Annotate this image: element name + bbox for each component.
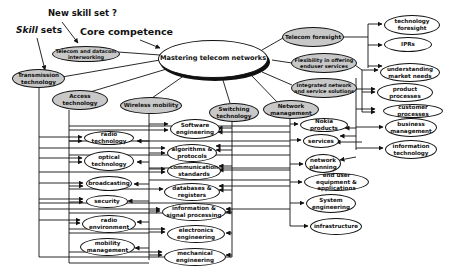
skill-node-databases-registers[interactable]: databases & registers (164, 183, 220, 201)
skill-node-technology-foresight[interactable]: technology foresight (384, 15, 440, 35)
skill-sets-italic: Skill (16, 25, 38, 35)
skill-node-services[interactable]: services (303, 134, 339, 148)
core-node-transmission[interactable]: Transmission technology (12, 69, 65, 88)
core-node-wireless[interactable]: Wireless mobility (120, 97, 182, 114)
skill-node-business-management[interactable]: business management (385, 118, 437, 137)
skill-node-algorithms-protocols[interactable]: algorithms & protocols (167, 144, 217, 162)
skill-node-understanding-market-needs[interactable]: understanding market needs (380, 63, 440, 82)
skill-node-information-signal-processing[interactable]: information & signal processing (162, 203, 226, 221)
new-skill-set-label: New skill set ? (48, 8, 117, 18)
skill-node-mechanical-engineering[interactable]: mechanical engineering (164, 248, 226, 266)
skill-node-radio-technology[interactable]: radio technology (84, 131, 134, 145)
skill-node-customer-processes[interactable]: customer processes (383, 104, 443, 118)
core-node-network-management[interactable]: Network management (263, 100, 319, 119)
skill-node-information-technology[interactable]: information technology (385, 140, 437, 159)
skill-node-iprs[interactable]: IPRs (384, 37, 432, 52)
skill-node-infrastructure[interactable]: infrastructure (310, 218, 362, 235)
skill-node-communication-standards[interactable]: communication standards (167, 162, 221, 180)
core-node-switching[interactable]: Switching technology (209, 103, 259, 122)
skill-node-security[interactable]: security (86, 195, 128, 208)
core-node-telecom-datacom[interactable]: Telecom and datacom interworking (52, 46, 120, 62)
skill-node-electronics-engineering[interactable]: electronics engineering (167, 225, 225, 243)
center-node-mastering-telecom[interactable]: Mastering telecom networks (158, 40, 268, 78)
skill-node-radio-environment[interactable]: radio environment (82, 215, 136, 233)
skill-node-end-user-equipment[interactable]: end user equipment & applications (304, 173, 369, 191)
skill-node-optical-technology[interactable]: optical technology (84, 151, 134, 171)
skill-node-product-processes[interactable]: product processes (377, 83, 433, 102)
core-node-integrated[interactable]: Integrated network and service solutions (291, 78, 357, 98)
skill-sets-rest: sets (38, 25, 62, 35)
skill-sets-label: Skill sets (16, 25, 62, 35)
core-node-flexibility[interactable]: Flexibility in offering enduser services (291, 53, 357, 73)
skill-node-software-engineering[interactable]: Software engineering (170, 119, 220, 139)
core-competence-label: Core competence (80, 26, 173, 37)
skill-node-nokia-products[interactable]: Nokia products (300, 118, 348, 132)
core-node-access[interactable]: Access technology (52, 90, 108, 110)
skill-node-broadcasting[interactable]: broadcasting (86, 176, 132, 191)
skill-node-system-engineering[interactable]: System engineering (306, 194, 356, 213)
skill-node-mobility-management[interactable]: mobility management (80, 238, 135, 256)
skill-node-network-planning[interactable]: network planning (305, 154, 341, 173)
core-node-telecom-foresight[interactable]: Telecom foresight (282, 27, 344, 47)
